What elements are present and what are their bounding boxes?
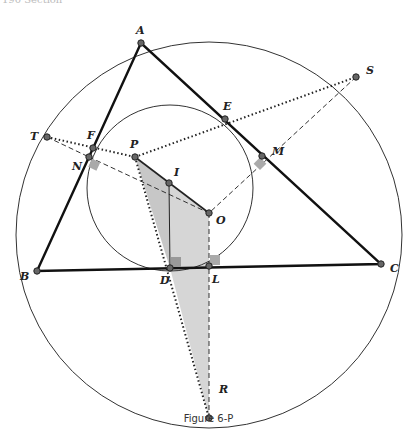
label-T: T: [30, 130, 39, 143]
line-TN: [47, 137, 89, 157]
figure-caption: Figure 6-P: [0, 413, 417, 424]
line-NO: [89, 157, 209, 213]
label-C: C: [390, 262, 399, 275]
label-L: L: [211, 273, 220, 286]
label-O: O: [216, 214, 226, 227]
geometry-figure: A B C D E F I L M N O P R S T: [0, 0, 417, 447]
line-PS: [135, 77, 356, 157]
label-R: R: [218, 383, 228, 396]
label-N: N: [71, 160, 83, 173]
label-P: P: [129, 138, 139, 151]
label-S: S: [366, 64, 374, 77]
figure-container: 190 Section: [0, 0, 417, 447]
label-M: M: [271, 145, 285, 158]
label-F: F: [86, 129, 96, 142]
label-E: E: [222, 100, 232, 113]
label-A: A: [135, 24, 145, 37]
right-angle-M: [254, 157, 267, 170]
label-I: I: [173, 166, 180, 179]
label-D: D: [159, 274, 170, 287]
label-B: B: [19, 270, 29, 283]
